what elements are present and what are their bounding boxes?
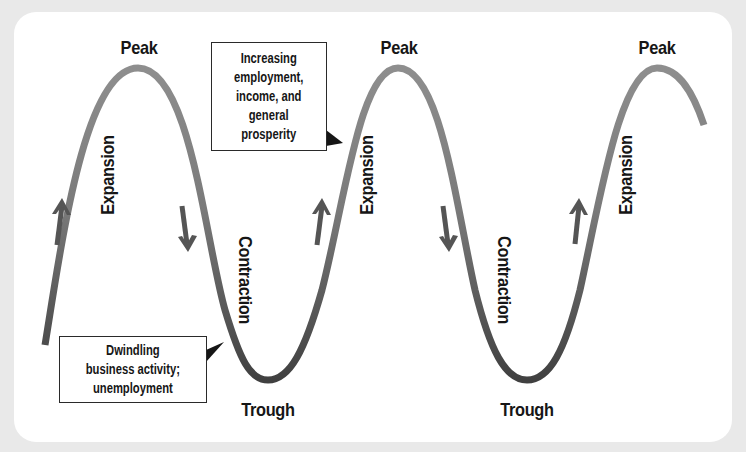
callout-line: Dwindling [86, 341, 180, 360]
callout-expansion: Increasing employment, income, and gener… [211, 42, 327, 151]
expansion-label: Expansion [356, 135, 378, 215]
callout-pointer [326, 130, 343, 146]
callout-contraction: Dwindling business activity; unemploymen… [59, 336, 207, 403]
expansion-label: Expansion [97, 135, 119, 215]
contraction-label: Contraction [234, 236, 256, 324]
callout-line: income, and [234, 87, 303, 106]
peak-label: Peak [381, 37, 418, 59]
contraction-label: Contraction [493, 236, 515, 324]
trough-label: Trough [241, 399, 294, 421]
callout-line: Increasing [234, 49, 303, 68]
callout-line: prosperity [234, 125, 303, 144]
callout-pointer [206, 342, 224, 362]
arrow-up-icon [569, 198, 588, 244]
arrow-down-icon [178, 206, 197, 252]
callout-line: unemployment [86, 379, 180, 398]
arrow-down-icon [439, 206, 458, 252]
expansion-label: Expansion [615, 135, 637, 215]
peak-label: Peak [121, 37, 158, 59]
callout-line: employment, [234, 68, 303, 87]
callout-line: general [234, 106, 303, 125]
peak-label: Peak [639, 37, 676, 59]
cycle-wave-curve [45, 68, 704, 380]
arrow-up-icon [312, 198, 331, 245]
trough-label: Trough [500, 399, 553, 421]
callout-line: business activity; [86, 360, 180, 379]
